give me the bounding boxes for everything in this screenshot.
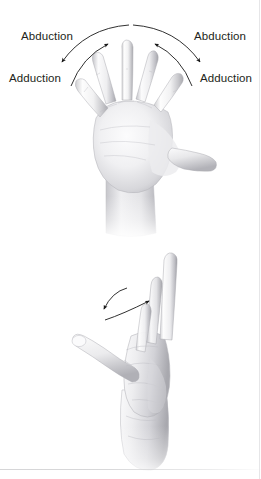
panel-abduction-adduction: Abduction Adduction Abduction Adduction (0, 0, 261, 240)
bottom-divider-rule (0, 469, 261, 470)
label-adduction-right: Adduction (200, 72, 252, 85)
hand-movement-figure: Abduction Adduction Abduction Adduction (0, 0, 261, 479)
flexion-arc-arrow (104, 288, 127, 309)
right-edge-rule (259, 0, 260, 479)
hand-lateral-icon (0, 240, 261, 479)
panel-flexion-extension: Extension Flexion (0, 240, 261, 479)
open-hand-drawing (75, 40, 216, 240)
label-abduction-left: Abduction (21, 30, 73, 43)
abduction-arc-right-arrow (133, 25, 200, 62)
label-abduction-right: Abduction (194, 30, 246, 43)
lateral-hand-drawing (72, 253, 182, 479)
label-adduction-left: Adduction (9, 72, 61, 85)
